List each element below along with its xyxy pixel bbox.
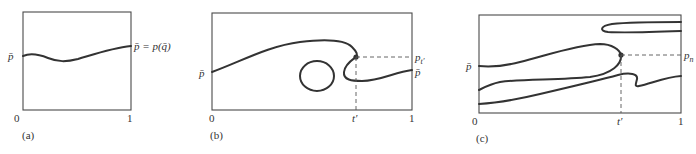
panel-a: p̄ p̄ = p(q̄) 0 1 (a)	[7, 12, 171, 142]
panel-c-upper-path	[479, 44, 621, 90]
panel-c-x-mid: t′	[617, 115, 623, 127]
panel-a-right-label: p̄ = p(q̄)	[133, 40, 171, 53]
panel-b: p̄ pt′ p̄ 0 t′ 1 (b)	[198, 13, 425, 142]
panel-c-x-start: 0	[472, 115, 478, 127]
panel-b-caption: (b)	[210, 129, 223, 142]
panel-b-x-end: 1	[409, 112, 415, 124]
panel-c-hairpin-loop	[602, 22, 681, 32]
panel-c-left-label: p̄	[465, 60, 472, 72]
figure-canvas: p̄ p̄ = p(q̄) 0 1 (a) p̄ pt′ p̄ 0 t′ 1 (…	[0, 0, 696, 154]
panel-c: p̄ pn 0 t′ 1 (c)	[465, 15, 694, 145]
panel-c-x-end: 1	[678, 115, 684, 127]
panel-a-caption: (a)	[22, 129, 35, 142]
panel-a-frame	[23, 12, 131, 110]
panel-b-right-upper-label: pt′	[414, 51, 425, 66]
panel-a-left-label: p̄	[7, 50, 14, 62]
panel-b-left-label: p̄	[198, 67, 205, 79]
panel-b-right-lower-label: p̄	[414, 66, 421, 78]
panel-c-right-label: pn	[683, 49, 694, 64]
panel-a-x-end: 1	[127, 112, 133, 124]
panel-b-isolated-loop	[300, 61, 334, 91]
panel-a-x-start: 0	[14, 112, 20, 124]
panel-a-path	[23, 46, 131, 61]
panel-b-x-start: 0	[209, 112, 215, 124]
panel-c-caption: (c)	[476, 132, 489, 145]
panel-b-x-mid: t′	[352, 112, 358, 124]
